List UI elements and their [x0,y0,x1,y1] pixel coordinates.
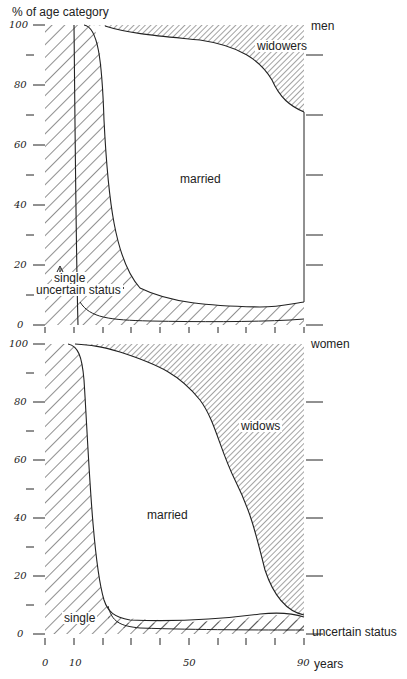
xtick-50: 50 [183,658,196,668]
women-panel [26,344,323,645]
women-uncertain-label: uncertain status [312,626,397,638]
y-axis-label: % of age category [12,6,109,18]
widowers-label: widowers [255,40,309,52]
xtick-0: 0 [42,658,48,668]
men-uncertain-label: uncertain status [34,284,123,296]
women-ytick-80: 80 [14,397,27,407]
women-married-label: married [147,509,188,521]
men-panel-title: men [311,20,334,32]
men-ytick-80: 80 [14,80,27,90]
men-ytick-20: 20 [14,260,27,270]
xtick-90: 90 [297,658,310,668]
women-widows-area [75,344,304,615]
widows-label: widows [239,420,282,432]
women-panel-title: women [311,338,350,350]
men-ytick-100: 100 [9,20,28,30]
women-ytick-0: 0 [17,629,23,639]
women-single-label: single [62,612,97,624]
women-ytick-20: 20 [14,571,27,581]
women-ytick-100: 100 [9,339,28,349]
women-ytick-40: 40 [14,513,27,523]
men-ytick-0: 0 [17,320,23,330]
x-axis-label: years [314,658,343,670]
xtick-10: 10 [69,658,82,668]
men-ytick-60: 60 [14,140,27,150]
women-ytick-60: 60 [14,455,27,465]
men-ytick-40: 40 [14,200,27,210]
men-married-label: married [180,173,221,185]
